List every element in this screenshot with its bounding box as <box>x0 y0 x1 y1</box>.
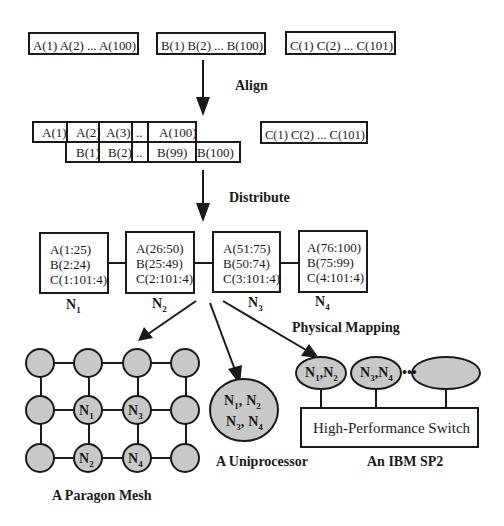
node-range-a: A(76:100) <box>307 240 361 255</box>
node-range-b: B(50:74) <box>223 256 270 271</box>
mesh-processor <box>171 444 199 472</box>
mesh-processor <box>171 396 199 424</box>
align-label: Align <box>235 78 268 93</box>
node-range-b: B(75:99) <box>307 255 354 270</box>
paragon-mesh: N1 N3 N2 N4 A Paragon Mesh <box>26 349 199 503</box>
mesh-processor <box>74 349 102 377</box>
sp2-arrow-head-icon <box>301 344 319 358</box>
uniprocessor-node <box>210 379 278 441</box>
node-range-b: B(25:49) <box>136 256 183 271</box>
node-range-c: C(4:101:4) <box>307 270 364 285</box>
sp2-caption: An IBM SP2 <box>367 454 443 469</box>
aligned-b-cell: B(99) <box>157 145 187 160</box>
node-range-b: B(2:24) <box>50 257 90 272</box>
aligned-b-row: B(1) B(2) .. B(99) B(100) <box>66 142 240 162</box>
node-name-n3: N3 <box>248 295 263 313</box>
aligned-b-cell: B(2) <box>108 145 132 160</box>
mesh-caption: A Paragon Mesh <box>52 488 152 503</box>
mesh-processor <box>26 349 54 377</box>
logical-node-n3: A(51:75) B(50:74) C(3:101:4) N3 <box>213 232 280 313</box>
physical-mapping-label: Physical Mapping <box>292 320 400 335</box>
mesh-arrow-head-icon <box>138 327 153 341</box>
distribute-label: Distribute <box>229 190 290 205</box>
node-range-a: A(51:75) <box>223 241 271 256</box>
aligned-b-cell: .. <box>136 145 143 160</box>
align-step: Align <box>196 60 268 116</box>
aligned-a-row: A(1) A(2) A(3) .. A(100) <box>33 122 197 142</box>
array-a-box: A(1) A(2) ... A(100) <box>29 33 138 54</box>
distribute-step: Distribute <box>196 170 290 222</box>
aligned-a-cell: A(3) <box>106 125 131 140</box>
aligned-a-cell: A(100) <box>159 125 197 140</box>
array-a-label: A(1) A(2) ... A(100) <box>33 38 136 53</box>
uniprocessor-arrow-shaft <box>210 303 235 370</box>
node-name-n2: N2 <box>152 296 167 314</box>
stage-original-arrays: A(1) A(2) ... A(100) B(1) B(2) ... B(100… <box>29 32 395 54</box>
aligned-a-cell: A(2) <box>76 125 101 140</box>
stage-distributed-nodes: A(1:25) B(2:24) C(1:101:4) N1 A(26:50) B… <box>40 231 367 315</box>
node-name-n1: N1 <box>66 297 81 315</box>
node-range-c: C(3:101:4) <box>223 271 280 286</box>
aligned-b-cell: B(100) <box>197 145 234 160</box>
node-range-c: C(1:101:4) <box>50 272 107 287</box>
logical-node-n4: A(76:100) B(75:99) C(4:101:4) N4 <box>299 231 367 312</box>
array-b-box: B(1) B(2) ... B(100) <box>157 33 265 54</box>
uniprocessor-caption: A Uniprocessor <box>216 454 308 469</box>
mesh-processor <box>26 444 54 472</box>
aligned-a-cell: A(1) <box>42 125 67 140</box>
mesh-processor <box>26 396 54 424</box>
node-name-n4: N4 <box>315 294 330 312</box>
node-range-a: A(26:50) <box>136 241 184 256</box>
align-arrow-head-icon <box>196 97 210 116</box>
aligned-c-label: C(1) C(2) ... C(101) <box>265 127 365 142</box>
logical-node-n2: A(26:50) B(25:49) C(2:101:4) N2 <box>126 232 194 314</box>
array-c-box: C(1) C(2) ... C(101) <box>286 32 395 54</box>
distribute-arrow-head-icon <box>196 203 210 222</box>
switch-label: High-Performance Switch <box>313 420 471 436</box>
ibm-sp2: N1,N2 N3,N4 ••• High-Performance Switch … <box>296 357 480 469</box>
data-mapping-diagram: A(1) A(2) ... A(100) B(1) B(2) ... B(100… <box>0 0 504 526</box>
uniprocessor: N1,N2 N3,N4 A Uniprocessor <box>210 379 308 469</box>
aligned-a-cell: .. <box>136 125 143 140</box>
node-range-a: A(1:25) <box>50 242 91 257</box>
sp2-node-3 <box>412 357 480 389</box>
logical-node-n1: A(1:25) B(2:24) C(1:101:4) N1 <box>40 233 108 315</box>
aligned-b-cell: B(1) <box>76 145 100 160</box>
array-c-label: C(1) C(2) ... C(101) <box>290 38 393 53</box>
array-b-label: B(1) B(2) ... B(100) <box>161 38 263 53</box>
aligned-c-box: C(1) C(2) ... C(101) <box>261 122 367 143</box>
mesh-processor <box>171 349 199 377</box>
stage-aligned-arrays: A(1) A(2) A(3) .. A(100) B(1) B(2) .. B(… <box>33 122 367 162</box>
mesh-processor <box>123 349 151 377</box>
node-range-c: C(2:101:4) <box>136 271 193 286</box>
sp2-ellipsis: ••• <box>402 365 417 380</box>
